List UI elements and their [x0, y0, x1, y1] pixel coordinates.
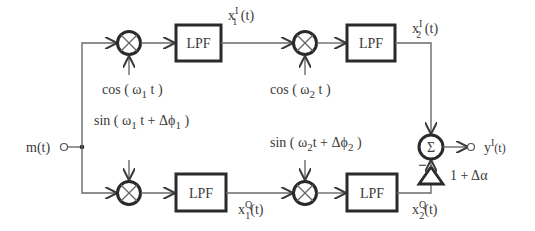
- signal-label-x2I: xI2 (t): [412, 18, 438, 40]
- svg-text:LPF: LPF: [189, 186, 213, 201]
- signal-label-x1I: xI1 (t): [228, 5, 254, 27]
- wire-to-bottom-mixer: [82, 147, 116, 193]
- input-label: m(t): [26, 140, 50, 156]
- svg-text:LPF: LPF: [359, 36, 383, 51]
- top-lpf-2: LPF: [347, 25, 395, 61]
- lo-label-bottom-2: sin ( ω2t + Δϕ2 ): [270, 135, 362, 153]
- input-terminal: [61, 144, 85, 151]
- bottom-lpf-1: LPF: [176, 174, 226, 211]
- sigma-icon: Σ: [427, 140, 435, 155]
- bottom-mixer-1: [118, 182, 141, 205]
- svg-text:LPF: LPF: [186, 36, 210, 51]
- minus-sign: −: [418, 157, 427, 173]
- bottom-mixer-2: [294, 182, 317, 205]
- svg-text:LPF: LPF: [360, 186, 384, 201]
- signal-label-x1Q: xQ1(t): [238, 199, 264, 221]
- top-mixer-1: [118, 32, 141, 55]
- iq-demodulator-diagram: m(t) cos ( ω1 t ) LPF xI1 (t) cos ( ω2 t…: [0, 0, 535, 231]
- lo-label-top-2: cos ( ω2 t ): [270, 82, 331, 100]
- lo-label-top-1: cos ( ω1 t ): [102, 82, 163, 100]
- top-mixer-2: [294, 32, 317, 55]
- output-terminal: [468, 144, 475, 151]
- lo-label-bottom-1: sin ( ω1 t + Δϕ1 ): [94, 113, 189, 131]
- gain-label: 1 + Δα: [450, 168, 488, 183]
- bottom-lpf-2: LPF: [347, 174, 397, 211]
- signal-label-x2Q: xQ2(t): [412, 199, 438, 221]
- top-lpf-1: LPF: [176, 25, 221, 61]
- summing-junction: Σ: [419, 135, 443, 159]
- output-label: yI(t): [484, 137, 506, 155]
